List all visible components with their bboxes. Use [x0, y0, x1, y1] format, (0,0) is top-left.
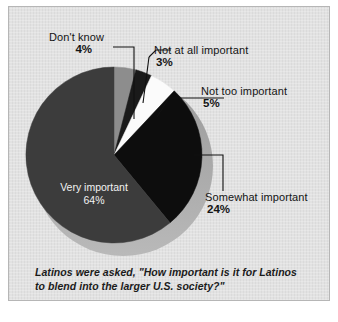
chart-caption: Latinos were asked, "How important is it…	[35, 265, 307, 294]
callout-dont-know-percent: 4%	[49, 43, 104, 56]
slice-label-very-important-percent: 64%	[39, 194, 149, 207]
callout-not-too-important-label: Not too important	[201, 85, 287, 97]
callout-not-too-important: Not too important 5%	[201, 85, 287, 110]
chart-caption-line-2: to blend into the larger U.S. society?"	[35, 279, 307, 293]
callout-somewhat-important-percent: 24%	[205, 203, 308, 216]
callout-dont-know: Don't know 4%	[49, 31, 104, 56]
slice-label-very-important-label: Very important	[39, 181, 149, 194]
slice-label-very-important: Very important 64%	[39, 181, 149, 207]
callout-somewhat-important: Somewhat important 24%	[205, 191, 308, 216]
callout-dont-know-label: Don't know	[49, 31, 104, 43]
callout-not-at-all-important: Not at all important 3%	[154, 44, 248, 69]
chart-figure: Don't know 4% Not at all important 3% No…	[8, 6, 330, 301]
callout-not-too-important-percent: 5%	[201, 97, 287, 110]
chart-caption-line-1: Latinos were asked, "How important is it…	[35, 265, 307, 279]
callout-not-at-all-important-label: Not at all important	[154, 44, 248, 56]
callout-not-at-all-important-percent: 3%	[154, 56, 248, 69]
callout-somewhat-important-label: Somewhat important	[205, 191, 308, 203]
